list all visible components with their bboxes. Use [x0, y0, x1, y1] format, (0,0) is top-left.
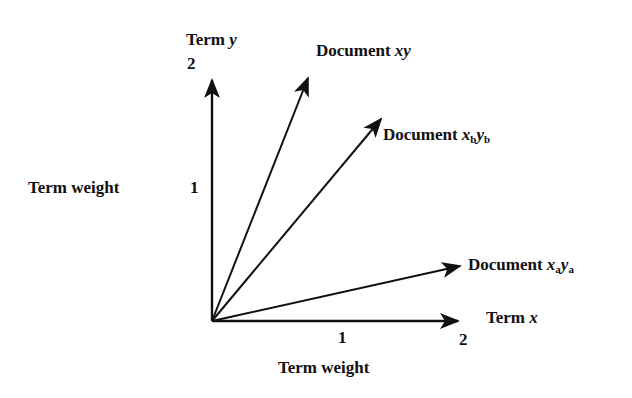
vector-label-document-xy: Document xy — [316, 42, 411, 59]
x-axis-name: Term x — [486, 309, 538, 326]
vector-document-xbyb — [212, 119, 381, 321]
vector-label-document-xbyb: Document xbyb — [383, 126, 490, 145]
vector-label-document-xaya: Document xaya — [468, 256, 574, 275]
y-axis-tick-2: 2 — [187, 55, 196, 72]
y-axis-tick-1: 1 — [190, 179, 199, 196]
vector-document-xaya — [212, 266, 460, 321]
vector-document-xy — [212, 78, 308, 321]
y-axis-label: Term weight — [28, 179, 119, 196]
x-axis-tick-1: 1 — [338, 329, 347, 346]
x-axis-tick-2: 2 — [459, 331, 468, 348]
x-axis-label: Term weight — [278, 359, 369, 376]
y-axis-name: Term y — [186, 31, 237, 48]
